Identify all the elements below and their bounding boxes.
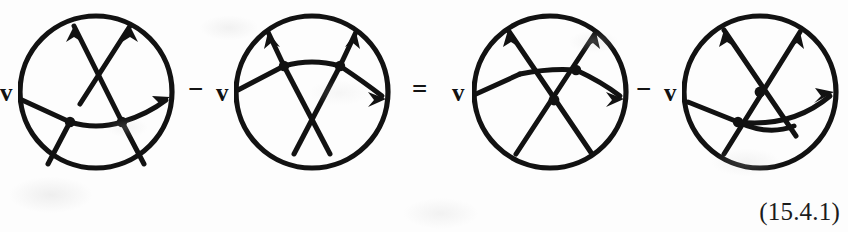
coefficient-v-3: v <box>452 80 465 105</box>
chord-diagram-1 <box>18 4 178 184</box>
crossing-strand-b <box>294 66 340 154</box>
crossing-dot-center <box>549 95 560 106</box>
vertex-dot-upper-right <box>571 65 581 75</box>
vertex-dot-lower-left <box>733 117 743 127</box>
crossing-strand-b <box>516 32 596 154</box>
right-exit-arc <box>576 70 620 96</box>
equals-sign: = <box>412 76 427 103</box>
crossing-strand-a <box>284 66 330 154</box>
vertex-dot-left <box>65 117 75 127</box>
minus-sign-2: − <box>636 76 651 103</box>
diagram-circle <box>20 16 172 168</box>
left-exit-leg <box>476 74 520 94</box>
chord-diagram-3 <box>472 4 632 184</box>
coefficient-v-4: v <box>664 80 677 105</box>
vertex-connector-chord <box>70 122 122 126</box>
left-vertex-leg-outer <box>238 66 284 90</box>
coefficient-v-2: v <box>216 80 229 105</box>
left-vertex-leg-outer <box>22 100 70 122</box>
chord-diagram-2 <box>234 4 394 184</box>
diagram-circle <box>236 16 388 168</box>
coefficient-v-1: v <box>0 80 13 105</box>
chord-diagram-4 <box>682 4 842 184</box>
equation-row: v − v <box>0 0 848 232</box>
vertex-connector-chord <box>284 62 340 66</box>
minus-sign-1: − <box>188 76 203 103</box>
left-exit-leg <box>688 102 738 122</box>
vertex-dot-right <box>117 117 127 127</box>
crossing-dot-center <box>755 87 766 98</box>
crossing-strand-a <box>508 30 592 154</box>
vertex-dot-left <box>279 61 289 71</box>
right-exit-arc <box>340 66 382 96</box>
equation-number: (15.4.1) <box>759 198 840 226</box>
vertex-dot-right <box>335 61 345 71</box>
arrowhead-top-left <box>264 32 280 49</box>
